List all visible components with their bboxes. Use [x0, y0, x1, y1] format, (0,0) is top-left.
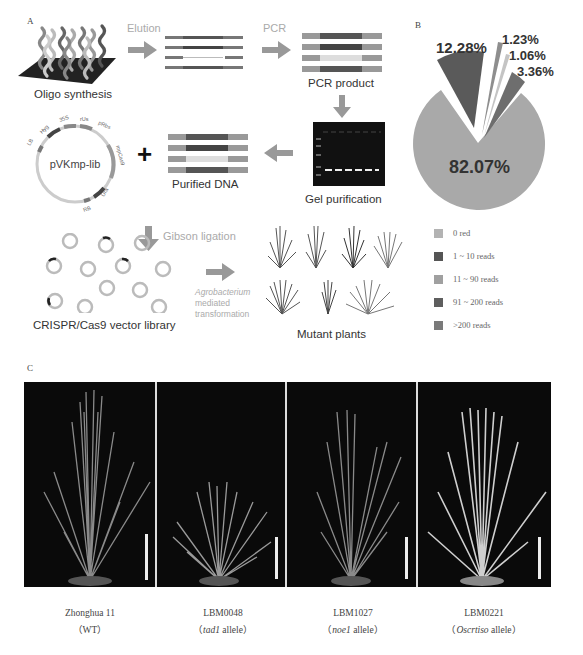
agro-line-1: Agrobacterium — [195, 287, 250, 297]
pie-slice-0-red — [413, 90, 545, 210]
caption-line2: （WT） — [24, 622, 156, 639]
legend-swatch — [434, 229, 443, 238]
caption-line2: （noe1 allele） — [287, 622, 419, 639]
legend-label: >200 reads — [453, 320, 491, 330]
eluted-oligos-icon — [165, 35, 245, 75]
legend-swatch — [434, 298, 443, 307]
panel-c-letter: C — [27, 363, 33, 373]
svg-text:rUs: rUs — [80, 116, 89, 122]
svg-text:pVKmp-lib: pVKmp-lib — [50, 158, 101, 170]
legend-item: 91 ~ 200 reads — [434, 297, 503, 307]
caption-line1: Zhonghua 11 — [24, 605, 156, 622]
pct-label-82-07: 82.07% — [449, 157, 510, 178]
oligo-synthesis-label: Oligo synthesis — [34, 88, 112, 100]
vector-library-label: CRISPR/Cas9 vector library — [33, 319, 176, 331]
down-arrow-icon — [332, 95, 352, 119]
left-arrow-icon — [264, 143, 294, 163]
pcr-product-icon — [302, 33, 384, 73]
transformation-arrow-icon — [206, 262, 236, 282]
gel-image — [313, 122, 385, 186]
svg-text:RB: RB — [82, 205, 92, 213]
plant-photo-wt — [24, 382, 155, 587]
elution-arrow-icon — [128, 40, 158, 60]
legend-label: 91 ~ 200 reads — [453, 297, 503, 307]
mutant-plants-label: Mutant plants — [297, 328, 366, 340]
vector-library-icon — [40, 233, 190, 313]
pcr-arrow-icon — [262, 40, 292, 60]
svg-text:mpCas9: mpCas9 — [115, 145, 126, 166]
caption-line1: LBM0221 — [418, 605, 550, 622]
pct-label-1-23: 1.23% — [502, 32, 539, 47]
legend-swatch — [434, 252, 443, 261]
purified-dna-icon — [168, 134, 250, 174]
plasmid-map-icon: pVKmp-lib LB Hyg 35S rUs pRbs mpCas9 Ura… — [20, 112, 130, 222]
legend-item: >200 reads — [434, 320, 491, 330]
elution-label: Elution — [127, 22, 161, 34]
legend-swatch — [434, 321, 443, 330]
caption-lbm0221: LBM0221 （Oscrtiso allele） — [418, 605, 550, 639]
caption-wt: Zhonghua 11 （WT） — [24, 605, 156, 639]
caption-lbm1027: LBM1027 （noe1 allele） — [287, 605, 419, 639]
svg-text:Ura: Ura — [100, 186, 110, 197]
pct-label-3-36: 3.36% — [517, 64, 554, 79]
agro-line-3: transformation — [195, 309, 249, 319]
agro-line-2: mediated — [195, 298, 230, 308]
legend-label: 1 ~ 10 reads — [453, 251, 495, 261]
caption-line1: LBM1027 — [287, 605, 419, 622]
legend-label: 11 ~ 90 reads — [453, 274, 499, 284]
plant-photo-noe1 — [287, 382, 416, 587]
legend-label: 0 red — [453, 228, 470, 238]
pcr-label: PCR — [263, 22, 286, 34]
pcr-product-label: PCR product — [308, 77, 374, 89]
pct-label-12-28: 12.28% — [436, 39, 487, 56]
pie-chart — [400, 30, 583, 220]
purified-dna-label: Purified DNA — [172, 178, 238, 190]
legend-item: 1 ~ 10 reads — [434, 251, 495, 261]
caption-line1: LBM0048 — [157, 605, 289, 622]
plant-photo-strip — [24, 382, 551, 587]
legend-item: 0 red — [434, 228, 470, 238]
plant-photo-tad1 — [157, 382, 285, 587]
caption-line2: （tad1 allele） — [157, 622, 289, 639]
plus-sign: + — [137, 139, 152, 170]
legend-item: 11 ~ 90 reads — [434, 274, 499, 284]
caption-line2: （Oscrtiso allele） — [418, 622, 550, 639]
mutant-plants-icon — [266, 222, 416, 322]
plant-photo-oscrtiso — [418, 382, 551, 587]
oligo-array-icon — [12, 18, 117, 90]
pct-label-1-06: 1.06% — [509, 48, 546, 63]
svg-text:pRbs: pRbs — [98, 119, 112, 130]
svg-text:35S: 35S — [58, 114, 70, 123]
svg-text:Hyg: Hyg — [38, 124, 49, 135]
caption-lbm0048: LBM0048 （tad1 allele） — [157, 605, 289, 639]
gel-purification-label: Gel purification — [305, 193, 382, 205]
legend-swatch — [434, 275, 443, 284]
svg-text:LB: LB — [26, 137, 35, 146]
panel-b-letter: B — [415, 20, 421, 30]
agrobacterium-label: Agrobacterium mediated transformation — [195, 287, 250, 320]
